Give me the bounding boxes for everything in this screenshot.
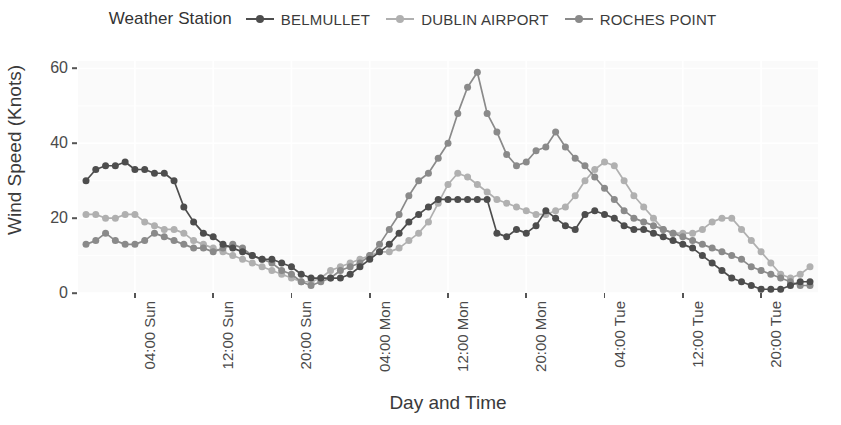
x-tick-label: 04:00 Sun <box>141 301 155 369</box>
legend-title: Weather Station <box>109 9 246 29</box>
legend-dot-0 <box>256 15 264 23</box>
x-axis-title: Day and Time <box>78 392 818 414</box>
legend-entry-1[interactable]: DUBLIN AIRPORT <box>386 11 565 28</box>
x-tick-mark <box>760 293 762 298</box>
x-axis: 04:00 Sun12:00 Sun20:00 Sun04:00 Mon12:0… <box>78 293 818 393</box>
y-axis: 0204060 <box>22 0 78 425</box>
legend-marker-icon-2 <box>565 11 593 27</box>
wind-speed-chart: Weather Station BELMULLET DUBLIN AIRPORT… <box>0 0 841 425</box>
x-tick-label: 12:00 Tue <box>689 301 703 368</box>
y-tick-mark <box>72 68 77 70</box>
y-tick-mark <box>72 217 77 219</box>
x-tick-mark <box>525 293 527 298</box>
x-tick-mark <box>291 293 293 298</box>
legend-marker-icon-1 <box>386 11 414 27</box>
x-tick-mark <box>604 293 606 298</box>
legend-label-1: DUBLIN AIRPORT <box>421 11 549 28</box>
x-tick-mark <box>369 293 371 298</box>
x-tick-label: 12:00 Mon <box>454 301 468 372</box>
y-tick-label: 0 <box>22 284 68 302</box>
legend-label-0: BELMULLET <box>281 11 370 28</box>
x-tick-label: 04:00 Tue <box>611 301 625 368</box>
x-tick-mark <box>134 293 136 298</box>
x-tick-mark <box>682 293 684 298</box>
x-tick-label: 04:00 Mon <box>376 301 390 372</box>
legend-dot-1 <box>396 15 404 23</box>
y-tick-label: 20 <box>22 209 68 227</box>
legend-dot-2 <box>575 15 583 23</box>
y-tick-mark <box>72 292 77 294</box>
legend-marker-icon-0 <box>246 11 274 27</box>
x-tick-label: 20:00 Tue <box>767 301 781 368</box>
x-tick-mark <box>447 293 449 298</box>
x-tick-label: 20:00 Sun <box>297 301 311 369</box>
legend-entry-2[interactable]: ROCHES POINT <box>565 11 733 28</box>
y-tick-label: 40 <box>22 134 68 152</box>
plot-area <box>78 61 818 293</box>
plot-svg <box>78 61 818 293</box>
y-tick-mark <box>72 143 77 145</box>
x-tick-mark <box>212 293 214 298</box>
legend-entry-0[interactable]: BELMULLET <box>246 11 386 28</box>
legend-label-2: ROCHES POINT <box>600 11 717 28</box>
chart-legend: Weather Station BELMULLET DUBLIN AIRPORT… <box>0 0 841 38</box>
x-tick-label: 12:00 Sun <box>219 301 233 369</box>
y-tick-label: 60 <box>22 59 68 77</box>
x-tick-label: 20:00 Mon <box>532 301 546 372</box>
